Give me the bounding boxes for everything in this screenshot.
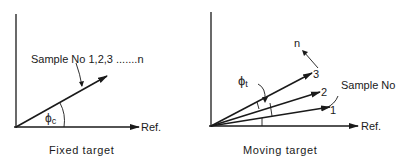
fixed-target-panel: ϕc Sample No 1,2,3 .......n Ref. Fixed t… [14,14,161,156]
angle-label-phi-t: ϕt [238,73,248,89]
sample-no-label: Sample No [341,79,395,91]
sample-label: Sample No 1,2,3 .......n [31,53,144,65]
moving-target-panel: 1 2 3 n Sample No ϕt Ref. Moving target [209,12,395,156]
angle-label-phi-c: ϕc [45,111,57,126]
angle-tick-2 [270,103,272,116]
sample-vector-arrow [16,76,107,127]
n-pointer [304,52,318,68]
caption-fixed-target: Fixed target [49,144,114,156]
label-vector-3: 3 [313,68,319,80]
angle-arc [60,103,65,127]
ref-label: Ref. [361,120,381,132]
label-vector-1: 1 [330,104,336,116]
angle-tick-3 [257,102,259,109]
ref-label: Ref. [141,121,161,133]
phasor-diagram: ϕc Sample No 1,2,3 .......n Ref. Fixed t… [0,0,406,168]
label-vector-2: 2 [321,86,327,98]
caption-moving-target: Moving target [243,144,317,156]
label-n: n [294,37,300,49]
